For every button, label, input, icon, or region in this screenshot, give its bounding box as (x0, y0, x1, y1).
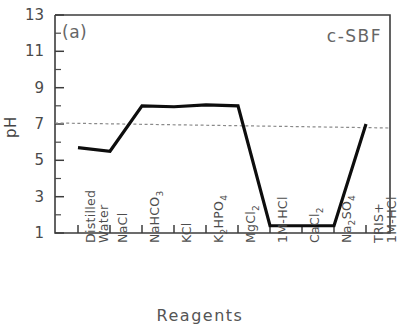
y-tick-label-5: 5 (14, 151, 44, 169)
x-tick-label-1: NaCl (116, 213, 129, 243)
x-tick-label-3: KCl (180, 222, 193, 243)
x-tick-label-4: K2HPO4 (212, 195, 231, 243)
y-axis-major-ticks (55, 15, 64, 233)
x-tick-label-8: Na2SO4 (340, 195, 359, 243)
x-tick-label-7: CaCl2 (308, 207, 327, 243)
reference-line-ph7 (55, 123, 390, 128)
x-tick-label-0: DistilledWater (84, 190, 110, 243)
x-tick-label-2: NaHCO3 (148, 190, 167, 243)
chart-figure: (a) c-SBF pH Reagents 13 11 9 7 5 3 1 Di… (0, 0, 400, 331)
panel-label: (a) (62, 22, 87, 42)
plot-canvas (0, 0, 400, 331)
x-axis-title: Reagents (0, 306, 400, 325)
y-tick-label-11: 11 (14, 42, 44, 60)
y-tick-label-13: 13 (14, 6, 44, 24)
x-tick-label-6: 1M-HCl (276, 196, 289, 243)
series-label: c-SBF (327, 26, 382, 46)
x-tick-label-9: TRIS+1M-HCl (372, 196, 398, 243)
y-tick-label-7: 7 (14, 115, 44, 133)
y-tick-label-1: 1 (14, 224, 44, 242)
y-tick-label-9: 9 (14, 79, 44, 97)
x-tick-label-5: MgCl2 (244, 205, 263, 243)
y-tick-label-3: 3 (14, 188, 44, 206)
